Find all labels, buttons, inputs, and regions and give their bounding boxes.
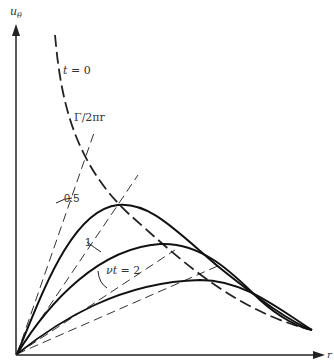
label-0.5: 0.5 [64,192,79,204]
curve-vt-1 [17,244,312,354]
x-axis-arrow-icon [313,351,325,359]
label-1: 1 [85,236,91,248]
plot-area [0,0,334,363]
x-axis-label: r [327,349,332,360]
curve-vt-2 [17,280,312,354]
label-gamma: Γ/2πr [74,111,105,124]
y-axis-label: uθ [10,5,22,20]
y-axis-arrow-icon [12,24,20,36]
label-vt-2: νt = 2 [106,264,140,277]
curve-t0 [55,35,312,330]
label-t0: t = 0 [63,64,91,77]
chart: uθ r t = 0 Γ/2πr 0.5 1 νt = 2 [0,0,334,363]
